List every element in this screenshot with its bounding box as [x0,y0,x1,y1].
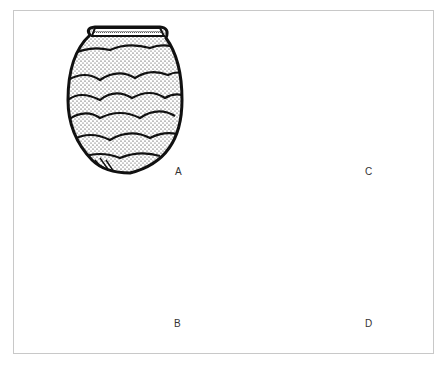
vessel-a [68,27,185,173]
pottery-illustrations [0,0,447,365]
label-d: D [365,319,372,329]
label-a: A [175,167,182,177]
label-b: B [174,319,181,329]
label-c: C [365,167,372,177]
